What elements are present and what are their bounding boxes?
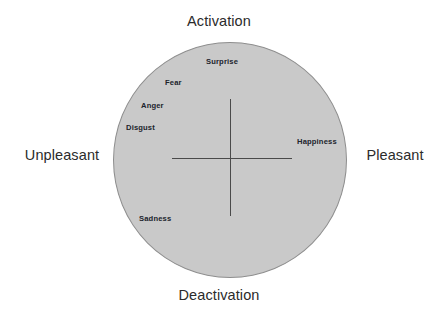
circumplex-affect-diagram: Activation Deactivation Unpleasant Pleas… bbox=[0, 0, 438, 315]
axis-label-unpleasant: Unpleasant bbox=[10, 147, 114, 163]
emotion-label-anger: Anger bbox=[141, 101, 164, 110]
emotion-label-surprise: Surprise bbox=[206, 57, 238, 66]
axis-label-deactivation: Deactivation bbox=[0, 287, 438, 303]
emotion-label-sadness: Sadness bbox=[139, 214, 171, 223]
emotion-label-disgust: Disgust bbox=[126, 123, 155, 132]
horizontal-axis-line bbox=[172, 158, 292, 159]
axis-label-activation: Activation bbox=[0, 13, 438, 29]
emotion-label-fear: Fear bbox=[165, 78, 182, 87]
axis-label-pleasant: Pleasant bbox=[356, 147, 434, 163]
vertical-axis-line bbox=[230, 99, 231, 216]
emotion-label-happiness: Happiness bbox=[297, 137, 337, 146]
